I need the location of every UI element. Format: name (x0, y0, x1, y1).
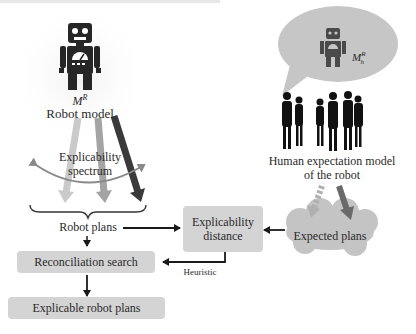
plans-brace (30, 205, 146, 218)
spectrum-label: Explicability spectrum (40, 150, 140, 178)
cloud-icon (286, 198, 378, 256)
explicable-robot-plans-box: Explicable robot plans (8, 297, 165, 319)
heuristic-arrow (163, 252, 225, 262)
expected-plans-label: Expected plans (290, 229, 370, 244)
reconciliation-search-box: Reconciliation search (17, 251, 155, 273)
explicability-distance-box: Explicability distance (183, 206, 263, 252)
heuristic-label: Heuristic (178, 267, 222, 277)
human-model-label: Human expectation model of the robot (252, 154, 412, 182)
people-silhouettes-icon (282, 91, 363, 151)
human-model-symbol: MRh (346, 50, 370, 66)
robot-plans-label: Robot plans (38, 220, 138, 235)
robot-model-label: Robot model (30, 106, 130, 122)
